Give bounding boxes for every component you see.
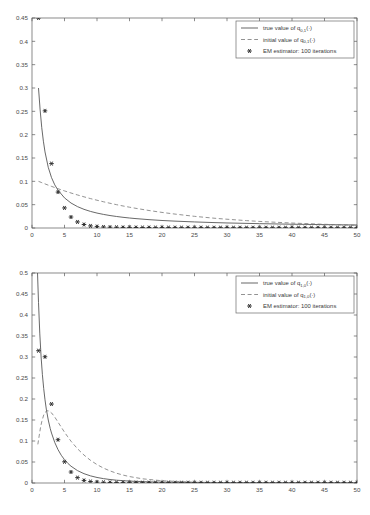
em-estimator-marker — [147, 226, 151, 229]
em-estimator-marker — [232, 481, 236, 484]
x-tick-label: 25 — [191, 486, 198, 493]
em-estimator-marker — [349, 226, 353, 229]
y-tick-label: 0.4 — [19, 311, 28, 318]
em-estimator-marker — [56, 438, 60, 441]
em-estimator-marker — [245, 226, 249, 229]
y-tick-label: 0.45 — [16, 290, 29, 297]
em-estimator-marker — [264, 481, 268, 484]
em-estimator-marker — [316, 481, 320, 484]
y-tick-label: 0.1 — [19, 437, 28, 444]
em-estimator-marker — [251, 226, 255, 229]
em-estimator-marker — [238, 481, 242, 484]
plot-area-1: 0510152025303540455000.050.10.150.20.250… — [0, 0, 370, 255]
em-estimator-marker — [284, 226, 288, 229]
em-estimator-marker — [238, 226, 242, 229]
em-estimator-marker — [69, 215, 73, 218]
x-tick-label: 35 — [256, 231, 263, 238]
y-tick-label: 0.2 — [19, 395, 28, 402]
em-estimator-marker — [277, 226, 281, 229]
figure-q10: 0510152025303540455000.050.10.150.20.250… — [0, 255, 370, 515]
em-estimator-marker — [141, 226, 145, 229]
em-estimator-marker — [271, 481, 275, 484]
legend-label: EM estimator: 100 iterations — [263, 48, 336, 54]
x-tick-label: 15 — [126, 486, 133, 493]
em-estimator-marker — [199, 226, 203, 229]
y-tick-label: 0.35 — [16, 332, 29, 339]
y-tick-label: 0.15 — [16, 154, 29, 161]
em-estimator-marker — [212, 226, 216, 229]
em-estimator-marker — [336, 481, 340, 484]
em-estimator-marker — [50, 162, 54, 165]
initial-value-curve — [39, 181, 358, 225]
em-estimator-marker — [121, 481, 125, 484]
em-estimator-marker — [134, 226, 138, 229]
x-tick-label: 5 — [63, 231, 67, 238]
x-tick-label: 30 — [224, 231, 231, 238]
em-estimator-marker — [69, 470, 73, 473]
x-tick-label: 20 — [159, 486, 166, 493]
em-estimator-marker — [89, 224, 93, 227]
em-estimator-marker — [173, 226, 177, 229]
plot-area-2: 0510152025303540455000.050.10.150.20.250… — [0, 255, 370, 515]
em-estimator-marker — [102, 481, 106, 484]
y-tick-label: 0 — [25, 224, 29, 231]
em-estimator-marker — [336, 226, 340, 229]
em-estimator-marker — [297, 481, 301, 484]
em-estimator-marker — [154, 226, 158, 229]
y-tick-label: 0.45 — [16, 14, 29, 21]
x-tick-label: 20 — [159, 231, 166, 238]
x-tick-label: 50 — [354, 231, 361, 238]
em-estimator-marker — [154, 481, 158, 484]
x-tick-label: 35 — [256, 486, 263, 493]
y-tick-label: 0.3 — [19, 84, 28, 91]
em-estimator-marker — [245, 481, 249, 484]
em-estimator-marker — [316, 226, 320, 229]
x-tick-label: 40 — [289, 231, 296, 238]
y-tick-label: 0.25 — [16, 374, 29, 381]
em-estimator-marker — [219, 481, 223, 484]
em-estimator-marker — [43, 355, 47, 358]
em-estimator-marker — [167, 226, 171, 229]
em-estimator-marker — [310, 226, 314, 229]
em-estimator-marker — [212, 481, 216, 484]
x-tick-label: 45 — [321, 486, 328, 493]
x-tick-label: 0 — [30, 231, 34, 238]
em-estimator-marker — [115, 481, 119, 484]
em-estimator-marker — [186, 226, 190, 229]
em-estimator-marker — [37, 349, 41, 352]
y-tick-label: 0.2 — [19, 131, 28, 138]
x-tick-label: 50 — [354, 486, 361, 493]
x-tick-label: 0 — [30, 486, 34, 493]
y-tick-label: 0.5 — [19, 269, 28, 276]
em-estimator-marker — [76, 476, 80, 479]
em-estimator-marker — [219, 226, 223, 229]
em-estimator-marker — [37, 16, 41, 19]
y-tick-label: 0 — [25, 479, 29, 486]
em-estimator-marker — [271, 226, 275, 229]
em-estimator-marker — [310, 481, 314, 484]
em-estimator-marker — [277, 481, 281, 484]
y-tick-label: 0.05 — [16, 458, 29, 465]
em-estimator-marker — [303, 481, 307, 484]
y-tick-label: 0.1 — [19, 178, 28, 185]
y-tick-label: 0.4 — [19, 38, 28, 45]
em-estimator-marker — [297, 226, 301, 229]
em-estimator-marker — [264, 226, 268, 229]
em-estimator-marker — [349, 481, 353, 484]
em-estimator-marker — [121, 226, 125, 229]
legend-label: EM estimator: 100 iterations — [263, 303, 336, 309]
true-value-curve — [39, 88, 358, 225]
em-estimator-marker — [232, 226, 236, 229]
em-estimator-marker — [186, 481, 190, 484]
initial-value-curve — [38, 411, 357, 483]
x-tick-label: 10 — [94, 486, 101, 493]
figure-q01: 0510152025303540455000.050.10.150.20.250… — [0, 0, 370, 255]
x-tick-label: 10 — [94, 231, 101, 238]
y-tick-label: 0.25 — [16, 108, 29, 115]
x-tick-label: 30 — [224, 486, 231, 493]
em-estimator-marker — [108, 481, 112, 484]
x-tick-label: 25 — [191, 231, 198, 238]
legend: true value of q1,0(·)initial value of q1… — [236, 276, 354, 313]
em-estimator-marker — [82, 223, 86, 226]
x-tick-label: 5 — [63, 486, 67, 493]
